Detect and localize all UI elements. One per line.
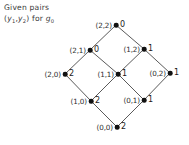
- diagram-canvas: Given pairs (y1,y2) for g0 (2,2)0(2,1)0(…: [0, 0, 189, 145]
- node-value: 1: [148, 44, 153, 53]
- node-label: (2,1): [69, 46, 86, 55]
- lattice-node: [142, 47, 147, 52]
- node-value: 1: [148, 95, 153, 104]
- lattice-node: [142, 98, 147, 103]
- lattice-node: [88, 48, 93, 53]
- node-label: (1,2): [123, 45, 140, 54]
- node-label: (1,1): [97, 70, 114, 79]
- node-label: (1,0): [70, 97, 87, 106]
- node-value: 2: [95, 96, 100, 105]
- lattice-node: [114, 23, 119, 28]
- lattice-node: [115, 125, 120, 130]
- node-value: 0: [94, 45, 99, 54]
- node-value: 2: [69, 69, 74, 78]
- lattice-node: [63, 72, 68, 77]
- lattice-node: [89, 99, 94, 104]
- lattice-node: [168, 71, 173, 76]
- node-label: (2,2): [95, 21, 112, 30]
- lattice-node: [116, 72, 121, 77]
- node-value: 1: [122, 69, 127, 78]
- node-label: (0,1): [123, 96, 140, 105]
- node-value: 1: [174, 68, 179, 77]
- node-label: (0,2): [149, 69, 166, 78]
- node-value: 0: [120, 20, 125, 29]
- node-label: (0,0): [96, 123, 113, 132]
- node-value: 2: [121, 122, 126, 131]
- node-label: (2,0): [44, 70, 61, 79]
